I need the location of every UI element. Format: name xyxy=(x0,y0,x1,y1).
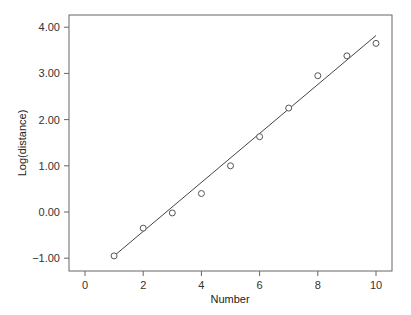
y-tick-label: 0.00 xyxy=(39,206,60,218)
fitted-line xyxy=(114,36,376,256)
y-tick-label: 2.00 xyxy=(39,114,60,126)
y-tick-label: −1.00 xyxy=(32,252,60,264)
y-tick-label: 3.00 xyxy=(39,67,60,79)
x-axis-title: Number xyxy=(210,293,249,305)
data-point xyxy=(286,105,292,111)
x-tick-label: 4 xyxy=(198,279,204,291)
plot-frame xyxy=(69,15,392,271)
y-axis-title: Log(distance) xyxy=(16,110,28,177)
x-tick-label: 10 xyxy=(370,279,382,291)
data-point xyxy=(228,163,234,169)
x-tick-label: 2 xyxy=(140,279,146,291)
data-point xyxy=(198,191,204,197)
data-points xyxy=(111,40,379,259)
data-point xyxy=(169,210,175,216)
x-tick-label: 6 xyxy=(257,279,263,291)
x-tick-label: 8 xyxy=(315,279,321,291)
x-axis-ticks: 0246810 xyxy=(82,271,382,291)
y-tick-label: 1.00 xyxy=(39,160,60,172)
y-tick-label: 4.00 xyxy=(39,21,60,33)
scatter-chart: 0246810 −1.000.001.002.003.004.00 Number… xyxy=(0,0,411,315)
data-point xyxy=(315,73,321,79)
data-point xyxy=(373,40,379,46)
data-point xyxy=(140,225,146,231)
data-point xyxy=(111,253,117,259)
y-axis-ticks: −1.000.001.002.003.004.00 xyxy=(32,21,69,264)
data-point xyxy=(257,134,263,140)
data-point xyxy=(344,53,350,59)
x-tick-label: 0 xyxy=(82,279,88,291)
